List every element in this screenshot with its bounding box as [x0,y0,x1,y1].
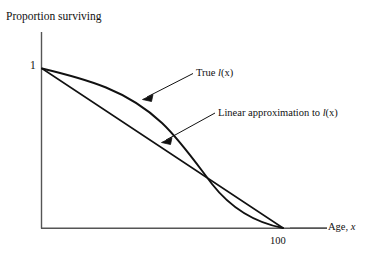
x-axis-title-prefix: Age, [328,221,351,232]
y-axis-title: Proportion surviving [6,11,102,23]
x-axis-title-variable: x [351,221,356,232]
annotation-linear-prefix: Linear approximation to [218,107,323,118]
true-lx-arrowhead [143,95,154,102]
linear-approx-arrowhead [162,138,173,145]
linear-approximation-line [42,69,283,229]
linear-approx-leader-line [166,113,215,140]
annotation-true-lx-prefix: True [196,67,218,78]
annotation-linear-approximation: Linear approximation to l(x) [218,108,338,119]
annotation-true-lx-suffix: (x) [221,67,233,78]
y-axis-tick-label-1: 1 [30,60,36,72]
annotation-linear-suffix: (x) [326,107,338,118]
true-lx-leader-line [147,74,193,98]
x-axis-tick-label-100: 100 [270,236,286,247]
figure-canvas [0,0,369,258]
survivorship-figure: Proportion surviving 1 100 Age, x True l… [0,0,369,258]
annotation-true-lx: True l(x) [196,68,233,79]
x-axis-title: Age, x [328,222,355,233]
